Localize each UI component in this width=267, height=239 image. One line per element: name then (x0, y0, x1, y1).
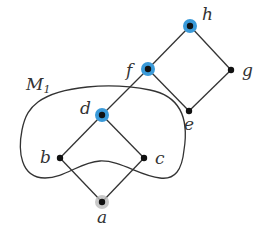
node-f (145, 66, 151, 72)
label-c: c (155, 148, 165, 168)
edge-g-h (190, 26, 231, 70)
edge-e-g (189, 70, 231, 111)
edge-b-d (60, 115, 102, 158)
node-c (141, 155, 147, 161)
label-g: g (242, 60, 253, 80)
label-a: a (97, 207, 107, 227)
edge-c-d (102, 115, 144, 158)
label-d: d (80, 98, 91, 118)
label-m1: M1 (25, 74, 50, 96)
node-b (57, 155, 63, 161)
label-e: e (184, 114, 194, 134)
edge-a-c (102, 158, 144, 202)
label-h: h (202, 4, 213, 24)
hasse-diagram: a b c d e f g h M1 (0, 0, 267, 239)
label-b: b (40, 147, 51, 167)
edge-a-b (60, 158, 102, 202)
node-a (99, 199, 105, 205)
edge-d-f (102, 69, 148, 115)
edge-f-h (148, 26, 190, 69)
node-h (187, 23, 193, 29)
node-g (228, 67, 234, 73)
node-d (99, 112, 105, 118)
edge-f-e (148, 69, 189, 111)
label-f: f (124, 60, 135, 80)
